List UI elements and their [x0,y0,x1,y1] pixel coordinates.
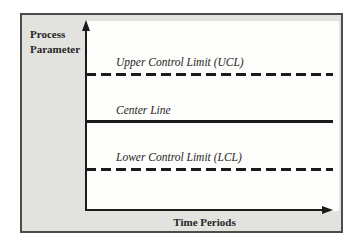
plot-area: Upper Control Limit (UCL) Center Line Lo… [85,21,339,211]
y-axis-label: Process Parameter [30,27,88,57]
lower-control-limit-line [86,168,333,171]
figure-canvas: Process Parameter Upper Control Limit (U… [0,0,360,250]
center-line [86,120,333,123]
control-chart-frame: Process Parameter Upper Control Limit (U… [20,13,343,233]
upper-control-limit-label: Upper Control Limit (UCL) [116,56,244,69]
center-line-label: Center Line [116,104,171,117]
arrow-up-icon [82,20,90,31]
y-axis [85,27,87,211]
upper-control-limit-line [86,73,333,76]
x-axis-label: Time Periods [152,216,257,228]
arrow-right-icon [322,206,333,214]
lower-control-limit-label: Lower Control Limit (LCL) [116,151,242,164]
x-axis [85,209,323,212]
